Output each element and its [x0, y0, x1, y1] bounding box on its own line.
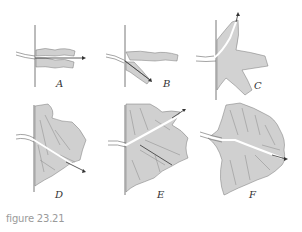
panel-a-label: A	[56, 78, 63, 89]
panel-c: C	[200, 0, 302, 100]
panel-b-drawing	[100, 0, 200, 100]
panel-d: D	[0, 100, 100, 210]
panel-b: B	[100, 0, 200, 100]
panel-f: F	[200, 100, 302, 210]
panel-f-label: F	[249, 189, 256, 200]
panel-c-label: C	[254, 80, 262, 91]
panel-e-label: E	[157, 189, 164, 200]
figure-caption: figure 23.21	[6, 213, 64, 224]
panel-d-drawing	[0, 100, 100, 210]
panel-a: A	[0, 0, 100, 100]
panel-d-label: D	[55, 189, 63, 200]
panel-c-drawing	[200, 0, 302, 100]
panel-e-drawing	[100, 100, 200, 210]
panel-e: E	[100, 100, 200, 210]
panel-b-label: B	[163, 78, 170, 89]
panel-a-drawing	[0, 0, 100, 100]
